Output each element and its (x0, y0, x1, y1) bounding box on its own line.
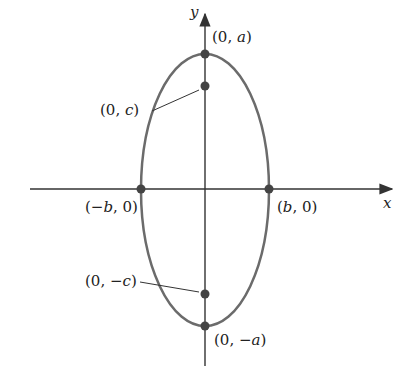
bottom-vertex-point (201, 322, 210, 331)
bottom-focus-point (201, 290, 210, 299)
diagram-canvas (0, 0, 417, 383)
left-covertex-label: (−b, 0) (85, 200, 138, 215)
top-focus-label: (0, c) (100, 103, 139, 118)
right-covertex-point (265, 185, 274, 194)
ellipse-diagram: y x (0, a) (0, c) (−b, 0) (b, 0) (0, −c)… (0, 0, 417, 383)
x-axis-label: x (383, 196, 391, 211)
top-focus-point (201, 82, 210, 91)
focus-leader-bottom (140, 282, 199, 292)
top-vertex-point (201, 50, 210, 59)
y-axis-label: y (190, 5, 198, 20)
top-vertex-label: (0, a) (212, 30, 252, 45)
left-covertex-point (137, 185, 146, 194)
right-covertex-label: (b, 0) (277, 200, 317, 215)
bottom-vertex-label: (0, −a) (214, 333, 266, 348)
bottom-focus-label: (0, −c) (85, 274, 137, 289)
